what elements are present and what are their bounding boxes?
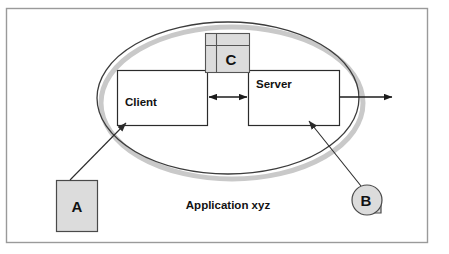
node-component-c[interactable]: C xyxy=(206,34,250,73)
component-c-label: C xyxy=(226,51,237,68)
node-client[interactable]: Client xyxy=(118,71,208,126)
client-label: Client xyxy=(125,96,157,108)
callout-a[interactable]: A xyxy=(57,181,98,232)
node-server[interactable]: Server xyxy=(249,71,340,126)
server-label: Server xyxy=(256,78,292,90)
application-caption: Application xyz xyxy=(186,199,271,211)
callout-a-label: A xyxy=(72,198,83,215)
diagram-canvas: Client Server C A B xyxy=(0,0,449,254)
callout-b[interactable]: B xyxy=(352,185,382,215)
callout-b-label: B xyxy=(361,192,372,209)
application-architecture-diagram: Client Server C A B xyxy=(0,0,449,254)
